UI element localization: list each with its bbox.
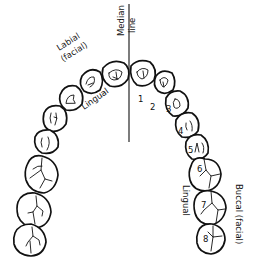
tooth-number-1: 1 — [138, 94, 143, 104]
dental-arch-diagram: Median line — [0, 0, 259, 273]
tooth-left-first-molar — [25, 156, 58, 193]
tooth-left-central-incisor — [102, 61, 129, 86]
tooth-7-second-molar: 7 — [194, 191, 226, 225]
right-quadrant: 1 2 3 4 5 6 7 — [131, 61, 226, 254]
tooth-number-5: 5 — [188, 145, 193, 155]
tooth-number-6: 6 — [197, 164, 202, 174]
label-buccal: Buccal (facial) — [234, 184, 244, 244]
median-label-line1: Median — [116, 5, 126, 36]
tooth-left-first-premolar — [43, 106, 67, 132]
tooth-left-second-molar — [17, 193, 51, 228]
tooth-8-third-molar: 8 — [197, 224, 225, 254]
tooth-left-second-premolar — [35, 130, 59, 154]
tooth-number-3: 3 — [166, 104, 171, 114]
tooth-5-second-premolar: 5 — [186, 135, 209, 160]
tooth-left-canine — [60, 86, 83, 111]
tooth-number-7: 7 — [201, 200, 206, 210]
label-lingual-posterior: Lingual — [181, 185, 191, 216]
left-quadrant — [14, 61, 129, 256]
tooth-number-2: 2 — [150, 102, 155, 112]
tooth-left-third-molar — [14, 224, 46, 256]
tooth-6-first-molar: 6 — [189, 158, 221, 191]
median-label-line2: line — [127, 18, 137, 33]
tooth-4-first-premolar: 4 — [176, 113, 199, 138]
tooth-1-central-incisor: 1 — [131, 61, 156, 104]
tooth-number-4: 4 — [178, 126, 183, 136]
tooth-number-8: 8 — [203, 234, 208, 244]
